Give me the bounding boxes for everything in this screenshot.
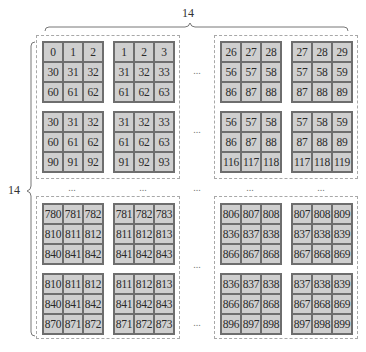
grid-cell: 61 [63, 132, 83, 152]
grid-cell: 811 [63, 224, 83, 244]
grid-cell: 813 [154, 224, 174, 244]
ellipsis-bottom-row-1: ... [193, 260, 201, 270]
grid-cell: 59 [332, 62, 352, 82]
grid-cell: 58 [312, 112, 332, 132]
grid-cell: 782 [83, 204, 103, 224]
grid-cell: 867 [241, 294, 261, 314]
grid-cell: 61 [63, 82, 83, 102]
grid-cell: 57 [292, 112, 312, 132]
grid-cell: 868 [261, 294, 281, 314]
grid-cell: 61 [114, 132, 134, 152]
grid-cell: 868 [261, 244, 281, 264]
grid-cell: 810 [43, 224, 63, 244]
grid-cell: 32 [83, 112, 103, 132]
grid-cell: 89 [332, 82, 352, 102]
left-brace [27, 42, 35, 336]
grid-cell: 843 [154, 294, 174, 314]
grid-cell: 807 [292, 204, 312, 224]
grid-cell: 898 [261, 314, 281, 334]
patch-top-left-2: 123313233616263 [113, 41, 175, 103]
grid-cell: 866 [221, 294, 241, 314]
grid-cell: 837 [241, 224, 261, 244]
grid-cell: 841 [114, 294, 134, 314]
grid-cell: 840 [43, 294, 63, 314]
grid-cell: 867 [241, 244, 261, 264]
grid-cell: 842 [83, 294, 103, 314]
grid-cell: 62 [83, 132, 103, 152]
patch-top-left-3: 303132606162909192 [42, 111, 104, 173]
patch-top-right-1: 262728565758868788 [220, 41, 282, 103]
grid-cell: 62 [134, 82, 154, 102]
grid-cell: 118 [312, 152, 332, 172]
grid-cell: 60 [43, 82, 63, 102]
grid-cell: 843 [154, 244, 174, 264]
grid-cell: 56 [221, 112, 241, 132]
grid-cell: 63 [154, 82, 174, 102]
grid-cell: 117 [241, 152, 261, 172]
grid-cell: 811 [114, 224, 134, 244]
patch-bottom-right-3: 836837838866867868896897898 [220, 273, 282, 335]
grid-cell: 91 [114, 152, 134, 172]
grid-cell: 842 [83, 244, 103, 264]
grid-cell: 809 [332, 204, 352, 224]
grid-cell: 62 [83, 82, 103, 102]
grid-cell: 86 [221, 82, 241, 102]
grid-cell: 898 [312, 314, 332, 334]
grid-cell: 87 [241, 82, 261, 102]
patch-top-right-3: 565758868788116117118 [220, 111, 282, 173]
grid-cell: 32 [83, 62, 103, 82]
grid-cell: 836 [221, 224, 241, 244]
grid-cell: 27 [292, 42, 312, 62]
grid-cell: 60 [43, 132, 63, 152]
ellipsis-top-row: ... [193, 66, 201, 76]
grid-cell: 88 [312, 82, 332, 102]
grid-cell: 63 [154, 132, 174, 152]
grid-cell: 90 [43, 152, 63, 172]
grid-cell: 28 [261, 42, 281, 62]
grid-cell: 811 [114, 274, 134, 294]
grid-cell: 61 [114, 82, 134, 102]
grid-cell: 897 [241, 314, 261, 334]
grid-cell: 873 [154, 314, 174, 334]
patch-bottom-left-2: 781782783811812813841842843 [113, 203, 175, 265]
grid-cell: 30 [43, 112, 63, 132]
grid-cell: 87 [292, 82, 312, 102]
grid-cell: 806 [221, 204, 241, 224]
grid-cell: 87 [292, 132, 312, 152]
grid-cell: 57 [292, 62, 312, 82]
patch-bottom-right-4: 837838839867868869897898899 [291, 273, 353, 335]
grid-cell: 117 [292, 152, 312, 172]
grid-cell: 812 [134, 224, 154, 244]
grid-cell: 88 [261, 82, 281, 102]
grid-cell: 92 [134, 152, 154, 172]
grid-cell: 62 [134, 132, 154, 152]
grid-cell: 866 [221, 244, 241, 264]
grid-cell: 31 [63, 112, 83, 132]
grid-cell: 897 [292, 314, 312, 334]
grid-cell: 808 [261, 204, 281, 224]
grid-cell: 33 [154, 112, 174, 132]
grid-cell: 812 [83, 224, 103, 244]
grid-cell: 29 [332, 42, 352, 62]
grid-cell: 842 [134, 294, 154, 314]
ellipsis-col-4: ... [317, 183, 325, 193]
grid-cell: 871 [63, 314, 83, 334]
grid-cell: 781 [63, 204, 83, 224]
patch-bottom-left-3: 810811812840841842870871872 [42, 273, 104, 335]
patch-bottom-left-4: 811812813841842843871872873 [113, 273, 175, 335]
grid-cell: 868 [312, 294, 332, 314]
grid-cell: 58 [261, 62, 281, 82]
grid-cell: 31 [63, 62, 83, 82]
ellipsis-col-2: ... [139, 183, 147, 193]
grid-cell: 899 [332, 314, 352, 334]
top-brace [45, 23, 348, 31]
grid-cell: 807 [241, 204, 261, 224]
patch-bottom-left-1: 780781782810811812840841842 [42, 203, 104, 265]
grid-cell: 812 [83, 274, 103, 294]
ellipsis-col-3: ... [246, 183, 254, 193]
grid-cell: 28 [312, 42, 332, 62]
grid-cell: 58 [312, 62, 332, 82]
grid-cell: 781 [114, 204, 134, 224]
grid-cell: 840 [43, 244, 63, 264]
grid-cell: 57 [241, 62, 261, 82]
